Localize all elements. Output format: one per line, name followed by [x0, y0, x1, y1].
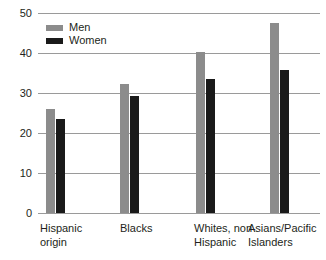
gridline-0: 0 [38, 213, 320, 214]
category-label-0: Hispanic origin [40, 222, 82, 250]
y-axis-tick-label: 40 [20, 48, 32, 59]
category-label-2: Whites, non- Hispanic [194, 222, 256, 250]
bar-chart: 01020304050 Hispanic originBlacksWhites,… [0, 0, 326, 260]
bar-men-0 [46, 109, 55, 213]
chart-legend: Men Women [46, 21, 107, 47]
bar-women-2 [206, 79, 215, 213]
category-label-3: Asians/Pacific Islanders [248, 222, 316, 250]
y-axis-tick-label: 50 [20, 8, 32, 19]
legend-item-men: Men [46, 21, 107, 34]
y-axis-tick-label: 10 [20, 168, 32, 179]
y-axis-tick-label: 20 [20, 128, 32, 139]
legend-swatch-men [46, 25, 63, 31]
bar-women-3 [280, 70, 289, 213]
gridline-50: 50 [38, 13, 320, 14]
legend-label-women: Women [69, 35, 107, 46]
legend-item-women: Women [46, 34, 107, 47]
category-label-1: Blacks [120, 222, 152, 236]
bar-men-2 [196, 52, 205, 213]
bar-men-3 [270, 23, 279, 213]
y-axis-tick-label: 0 [26, 208, 32, 219]
bar-men-1 [120, 84, 129, 213]
bar-women-1 [130, 96, 139, 213]
legend-label-men: Men [69, 22, 90, 33]
y-axis-tick-label: 30 [20, 88, 32, 99]
bar-women-0 [56, 119, 65, 213]
legend-swatch-women [46, 38, 63, 44]
